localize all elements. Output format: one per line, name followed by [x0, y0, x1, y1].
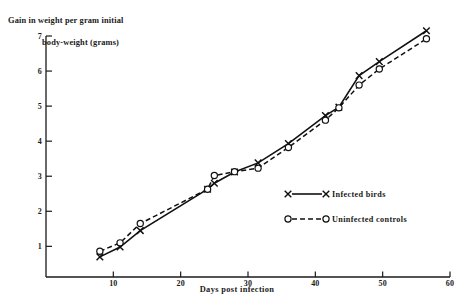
data-point-1-9: [336, 105, 342, 111]
y-tick-marks: [46, 36, 52, 246]
x-axis-title: Days post infection: [0, 285, 462, 294]
series-infected-birds: [97, 27, 430, 260]
x-tick-marks: [113, 272, 450, 278]
data-point-1-0: [97, 248, 103, 254]
data-point-1-4: [211, 172, 217, 178]
data-point-0-11: [376, 58, 383, 65]
data-point-1-10: [356, 82, 362, 88]
data-point-1-12: [423, 36, 429, 42]
data-point-1-11: [376, 66, 382, 72]
data-point-1-2: [137, 220, 143, 226]
y-tick-label-1: 1: [38, 242, 42, 251]
data-point-0-12: [423, 27, 430, 34]
y-tick-label-4: 4: [38, 137, 42, 146]
legend-symbols: [285, 191, 330, 222]
axes-lines: [46, 36, 450, 277]
legend-symbol-infected-birds-marker-end: [323, 191, 330, 198]
y-tick-label-7: 7: [38, 32, 42, 41]
data-point-1-3: [205, 186, 211, 192]
legend-symbol-infected-birds: [285, 191, 330, 198]
legend-label-infected-birds: Infected birds: [332, 190, 386, 199]
data-point-1-7: [285, 144, 291, 150]
y-tick-label-3: 3: [38, 172, 42, 181]
data-point-0-4: [211, 180, 218, 187]
data-point-1-6: [255, 165, 261, 171]
data-point-1-5: [231, 169, 237, 175]
plot-area: [0, 0, 462, 304]
chart-figure: Gain in weight per gram initial body-wei…: [0, 0, 462, 304]
legend-symbol-uninfected-controls-marker-end: [323, 216, 329, 222]
data-series-layer: [97, 27, 430, 260]
data-point-0-2: [137, 227, 144, 234]
data-point-1-1: [117, 240, 123, 246]
legend-symbol-infected-birds-marker-start: [285, 191, 292, 198]
legend-symbol-uninfected-controls: [285, 216, 329, 222]
data-point-1-8: [322, 117, 328, 123]
legend-symbol-uninfected-controls-marker-start: [285, 216, 291, 222]
y-tick-label-6: 6: [38, 67, 42, 76]
y-tick-label-5: 5: [38, 102, 42, 111]
legend-label-uninfected-controls: Uninfected controls: [332, 215, 407, 224]
y-tick-label-2: 2: [38, 207, 42, 216]
data-point-0-10: [356, 72, 363, 79]
